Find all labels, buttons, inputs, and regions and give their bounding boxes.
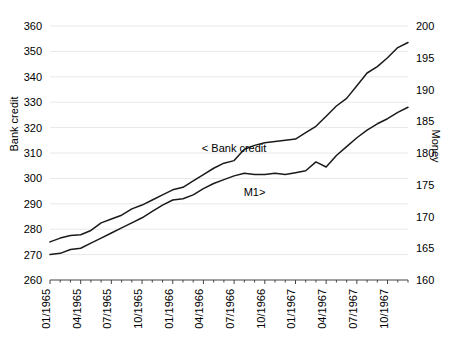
x-tick-label: 01/1965 xyxy=(40,289,52,329)
xtick-labels-group: 01/196504/196507/196510/196501/196604/19… xyxy=(40,289,390,329)
y-axis-right-title: Money xyxy=(430,106,442,186)
x-tick-label: 10/1965 xyxy=(132,289,144,329)
y-tick-label-left: 310 xyxy=(24,147,42,159)
xtick-marks-group xyxy=(50,280,408,284)
x-tick-label: 04/1965 xyxy=(71,289,83,329)
y-tick-label-left: 270 xyxy=(24,249,42,261)
series-line-m1 xyxy=(50,107,408,254)
y-tick-label-left: 330 xyxy=(24,96,42,108)
ytick-labels-left-group: 260270280290300310320330340350360 xyxy=(24,20,42,286)
x-tick-label: 04/1966 xyxy=(193,289,205,329)
x-tick-label: 07/1965 xyxy=(101,289,113,329)
y-tick-label-left: 300 xyxy=(24,172,42,184)
x-tick-label: 10/1966 xyxy=(255,289,267,329)
y-tick-label-left: 290 xyxy=(24,198,42,210)
y-tick-label-left: 260 xyxy=(24,274,42,286)
y-axis-left-title: Bank credit xyxy=(8,84,20,164)
x-tick-label: 01/1967 xyxy=(285,289,297,329)
x-tick-label: 01/1966 xyxy=(163,289,175,329)
y-tick-label-left: 280 xyxy=(24,223,42,235)
y-tick-label-right: 165 xyxy=(416,242,434,254)
line-chart: 260270280290300310320330340350360 160165… xyxy=(0,0,454,339)
y-tick-label-left: 340 xyxy=(24,71,42,83)
y-tick-label-right: 190 xyxy=(416,84,434,96)
x-tick-label: 07/1967 xyxy=(347,289,359,329)
y-tick-label-right: 160 xyxy=(416,274,434,286)
x-tick-label: 07/1966 xyxy=(224,289,236,329)
y-tick-label-right: 200 xyxy=(416,20,434,32)
series-annotation: M1> xyxy=(244,186,266,198)
y-tick-label-left: 360 xyxy=(24,20,42,32)
x-tick-label: 10/1967 xyxy=(378,289,390,329)
y-tick-label-left: 320 xyxy=(24,122,42,134)
series-annotation: < Bank credit xyxy=(202,142,267,154)
y-tick-label-right: 170 xyxy=(416,211,434,223)
chart-container: 260270280290300310320330340350360 160165… xyxy=(0,0,454,339)
x-tick-label: 04/1967 xyxy=(316,289,328,329)
y-tick-label-left: 350 xyxy=(24,45,42,57)
y-tick-label-right: 195 xyxy=(416,52,434,64)
